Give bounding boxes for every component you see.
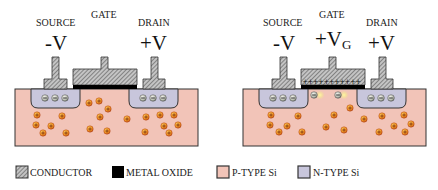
source-contact — [272, 57, 295, 89]
gate-voltage: +VG — [315, 27, 351, 52]
conductor-swatch — [16, 166, 28, 178]
source-label: SOURCE — [263, 17, 302, 28]
legend-item-conductor: CONDUCTOR — [16, 166, 92, 178]
electron — [160, 95, 167, 102]
source-contact — [44, 57, 67, 89]
electron — [388, 95, 395, 102]
hole — [408, 121, 414, 127]
hole — [166, 130, 172, 136]
electron — [290, 95, 297, 102]
hole — [86, 100, 92, 106]
hole — [161, 123, 167, 129]
electron — [62, 95, 69, 102]
drain-electrons — [368, 95, 395, 102]
hole — [268, 112, 274, 118]
mosfet-on: SOURCE GATE DRAIN -V +VG +V +++++++++++ — [243, 9, 426, 146]
gate-label: GATE — [91, 9, 117, 20]
source-label: SOURCE — [36, 17, 75, 28]
drain-label: DRAIN — [366, 17, 398, 28]
electron — [280, 95, 287, 102]
mosfet-diagram: SOURCE GATE DRAIN -V +V SOURCE GATE DRAI… — [0, 0, 438, 190]
electron — [270, 95, 277, 102]
drain-electrons — [140, 95, 167, 102]
gate-voltage-subscript: G — [342, 37, 351, 52]
mosfet-off: SOURCE GATE DRAIN -V +V — [15, 9, 198, 146]
hole — [63, 130, 69, 136]
hole — [379, 113, 385, 119]
legend-item-p-type: P-TYPE Si — [217, 166, 277, 178]
hole — [299, 129, 305, 135]
legend: CONDUCTOR METAL OXIDE P-TYPE Si N-TYPE S… — [16, 166, 360, 178]
drain-label: DRAIN — [138, 17, 170, 28]
legend-item-n-type: N-TYPE Si — [298, 166, 360, 178]
legend-label: N-TYPE Si — [313, 167, 360, 178]
drain-contact — [143, 57, 165, 89]
hole — [104, 128, 110, 134]
hole — [323, 124, 329, 130]
gate-label: GATE — [319, 9, 345, 20]
source-voltage: -V — [273, 31, 295, 55]
electron — [52, 95, 59, 102]
hole — [331, 112, 337, 118]
hole — [361, 116, 367, 122]
hole — [284, 123, 290, 129]
hole — [34, 112, 40, 118]
gate-oxide — [73, 85, 137, 89]
hole — [40, 130, 46, 136]
hole — [143, 114, 149, 120]
hole — [59, 113, 65, 119]
hole — [391, 123, 397, 129]
hole — [402, 129, 408, 135]
electron — [311, 91, 325, 100]
legend-label: P-TYPE Si — [232, 167, 277, 178]
hole — [157, 112, 163, 118]
hole — [48, 123, 54, 129]
legend-label: CONDUCTOR — [30, 167, 92, 178]
hole — [124, 116, 130, 122]
p-type-swatch — [217, 166, 229, 178]
hole — [276, 129, 282, 135]
hole — [33, 122, 39, 128]
hole — [175, 122, 181, 128]
electron — [368, 95, 375, 102]
source-electrons — [270, 95, 297, 102]
electron — [335, 91, 349, 100]
electron — [378, 95, 385, 102]
hole — [295, 113, 301, 119]
hole — [376, 129, 382, 135]
hole — [96, 98, 102, 104]
drain-voltage: +V — [140, 31, 167, 55]
gate-positive-charges: +++++++++++ — [302, 78, 361, 86]
hole — [105, 106, 111, 112]
legend-item-metal-oxide: METAL OXIDE — [112, 166, 193, 178]
electron — [140, 95, 147, 102]
drain-voltage: +V — [368, 31, 395, 55]
n-type-swatch — [298, 166, 310, 178]
hole — [341, 127, 347, 133]
source-electrons — [42, 95, 69, 102]
legend-label: METAL OXIDE — [126, 167, 193, 178]
gate-voltage-main: +V — [315, 27, 342, 51]
hole — [142, 129, 148, 135]
source-voltage: -V — [45, 31, 67, 55]
hole — [97, 114, 103, 120]
electron — [42, 95, 49, 102]
hole — [267, 122, 273, 128]
hole — [401, 112, 407, 118]
hole — [171, 112, 177, 118]
hole — [87, 126, 93, 132]
drain-contact — [371, 57, 393, 89]
metal-oxide-swatch — [112, 166, 124, 178]
gate-contact — [73, 57, 137, 85]
hole — [347, 105, 353, 111]
electron — [150, 95, 157, 102]
positive-charge-icon: + — [355, 78, 361, 86]
